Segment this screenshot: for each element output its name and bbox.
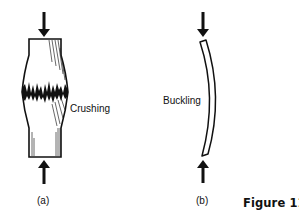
figure-canvas: Crushing (a) Buckling (b) Figure 11–2 [0, 0, 299, 222]
top-load-arrow-a-icon [38, 12, 50, 37]
crushing-label: Crushing [70, 104, 110, 114]
bottom-load-arrow-a-icon [38, 160, 50, 184]
panel-a-caption: (a) [37, 196, 49, 206]
panel-a-drawing [22, 12, 68, 184]
figure-title: Figure 11–2 [243, 198, 299, 210]
panel-b-caption: (b) [196, 196, 208, 206]
buckling-label: Buckling [163, 96, 201, 106]
slender-column [200, 40, 216, 156]
top-load-arrow-b-icon [197, 12, 209, 37]
bottom-load-arrow-b-icon [197, 160, 209, 183]
figure-drawing [0, 0, 299, 222]
